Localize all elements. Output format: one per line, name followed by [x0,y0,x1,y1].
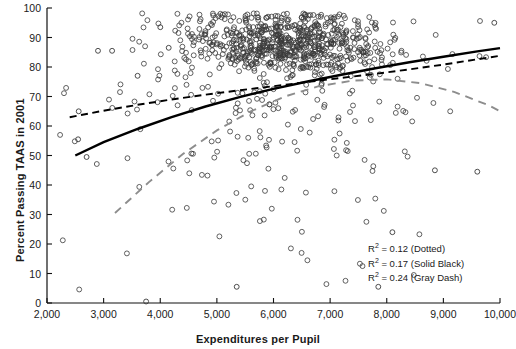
legend-r-dotted: R2 [368,243,379,254]
legend-row-graydash: R2 = 0.24 (Gray Dash) [368,269,464,284]
x-tick-label: 7,000 [317,308,343,320]
y-tick-label: 50 [14,150,41,162]
legend-r-graydash: R2 [368,272,379,283]
y-tick-label: 20 [14,238,41,250]
legend-row-dotted: R2 = 0.12 (Dotted) [368,240,464,255]
r-squared-legend: R2 = 0.12 (Dotted) R2 = 0.17 (Solid Blac… [368,240,464,284]
legend-text-graydash: = 0.24 (Gray Dash) [379,272,463,283]
y-tick-label: 90 [14,32,41,44]
y-tick-label: 80 [14,61,41,73]
legend-text-solid: = 0.17 (Solid Black) [379,258,464,269]
x-tick-label: 3,000 [90,308,116,320]
x-tick-label: 9,000 [430,308,456,320]
x-tick-label: 6,000 [260,308,286,320]
y-tick-label: 10 [14,268,41,280]
y-tick-label: 70 [14,91,41,103]
chart-container: Expenditures per Pupil Percent Passing T… [0,0,516,349]
y-tick-label: 40 [14,179,41,191]
y-tick-label: 60 [14,120,41,132]
legend-r-solid: R2 [368,258,379,269]
x-tick-label: 8,000 [374,308,400,320]
x-tick-label: 5,000 [204,308,230,320]
scatter-plot-canvas [0,0,516,349]
y-tick-label: 30 [14,209,41,221]
legend-row-solid: R2 = 0.17 (Solid Black) [368,255,464,270]
x-tick-label: 2,000 [34,308,60,320]
x-axis-title: Expenditures per Pupil [0,333,516,345]
x-tick-label: 4,000 [147,308,173,320]
legend-text-dotted: = 0.12 (Dotted) [379,243,445,254]
y-tick-label: 100 [14,2,41,14]
x-tick-label: 10,000 [484,308,516,320]
scatter-point [390,230,395,235]
